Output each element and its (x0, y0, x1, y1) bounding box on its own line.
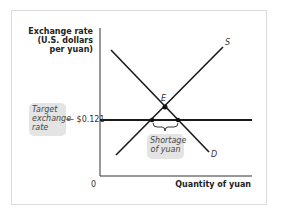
equilibrium-point (163, 105, 168, 110)
y-axis-label: Exchange rate (U.S. dollars per yuan) (28, 27, 93, 54)
equilibrium-label: E (161, 94, 166, 103)
target-rate-callout: Target exchange rate (29, 103, 66, 136)
supply-label: S (225, 38, 230, 47)
supply-target-point (150, 118, 154, 122)
origin-label: 0 (91, 180, 96, 189)
x-axis-label: Quantity of yuan (175, 180, 251, 189)
shortage-brace (153, 123, 178, 131)
demand-label: D (211, 150, 217, 159)
shortage-callout: Shortage of yuan (147, 134, 184, 159)
demand-target-point (176, 118, 180, 122)
target-rate-value: — $0.121 (66, 115, 105, 124)
